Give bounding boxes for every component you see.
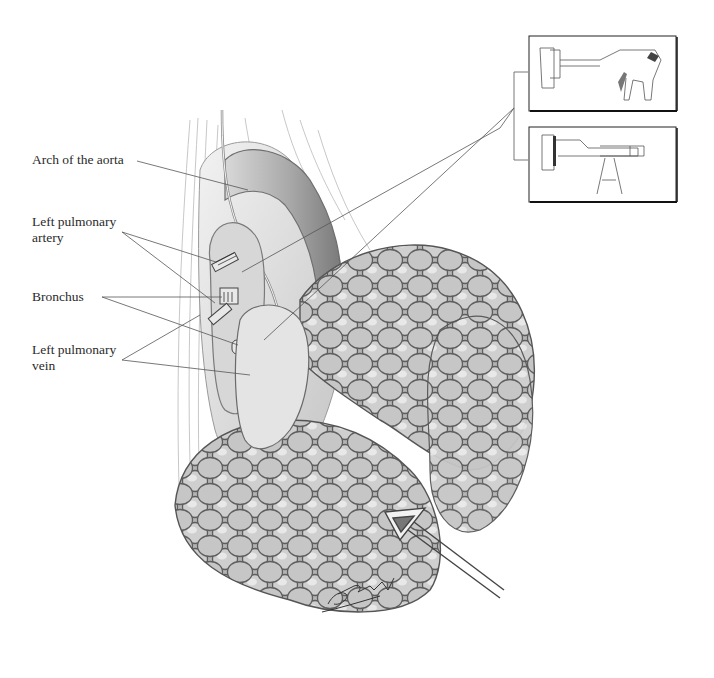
anatomy-drawing	[0, 0, 714, 678]
lung-lateral-lobe	[428, 316, 533, 532]
label-left-pulmonary-artery: Left pulmonary artery	[32, 214, 116, 246]
inset-stapler-1	[529, 36, 677, 111]
illustration-canvas: Arch of the aorta Left pulmonary artery …	[0, 0, 714, 678]
inset-stapler-2	[529, 127, 677, 202]
label-left-pulmonary-vein: Left pulmonary vein	[32, 342, 116, 374]
label-bronchus: Bronchus	[32, 289, 84, 305]
label-arch-of-aorta: Arch of the aorta	[32, 152, 124, 168]
